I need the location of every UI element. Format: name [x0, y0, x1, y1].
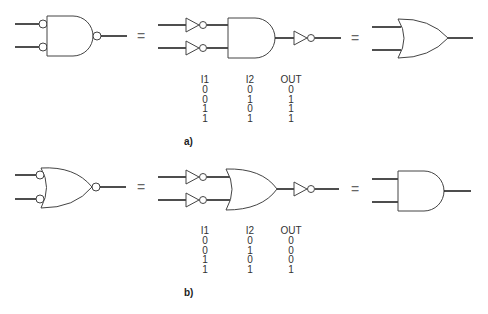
- input-inversion-bubble-icon: [36, 171, 44, 179]
- truth-table-b-col-i1: I1 0 0 1 1: [193, 226, 217, 275]
- panel-a-left-nand-gate-inverted-inputs: [15, 16, 127, 56]
- equals-sign: =: [137, 179, 145, 195]
- table-cell: 1: [238, 265, 262, 275]
- inverter-bubble-icon: [308, 35, 315, 42]
- inverter-bubble-icon: [200, 22, 207, 29]
- truth-table-b-col-i2: I2 0 1 0 1: [238, 226, 262, 275]
- or-gate-icon: [226, 169, 277, 210]
- equals-sign: =: [137, 28, 145, 44]
- and-gate-icon: [398, 171, 444, 211]
- and-gate-icon: [228, 18, 275, 58]
- panel-a-right-or-gate: [372, 19, 473, 58]
- truth-table-a-col-i1: I1 0 0 1 1: [193, 75, 217, 124]
- inverter-bubble-icon: [308, 186, 315, 193]
- panel-b-right-and-gate: [372, 171, 471, 211]
- input-inversion-bubble-icon: [39, 20, 47, 28]
- input-inversion-bubble-icon: [36, 195, 44, 203]
- panel-label-b: b): [184, 287, 193, 298]
- truth-table-b-col-out: OUT 0 0 0 1: [279, 226, 303, 275]
- inverter-bubble-icon: [200, 174, 207, 181]
- table-cell: 1: [279, 114, 303, 124]
- equals-sign: =: [351, 181, 359, 197]
- inverter-icon: [186, 193, 199, 207]
- equals-sign: =: [351, 30, 359, 46]
- inverter-icon: [186, 170, 199, 184]
- inverter-bubble-icon: [200, 45, 207, 52]
- truth-table-a-col-out: OUT 0 1 1 1: [279, 75, 303, 124]
- panel-label-a: a): [184, 136, 193, 147]
- output-inversion-bubble-icon: [92, 183, 100, 191]
- truth-table-a-col-i2: I2 0 1 0 1: [238, 75, 262, 124]
- inverter-icon: [294, 31, 307, 45]
- inverter-icon: [294, 182, 307, 196]
- input-inversion-bubble-icon: [39, 43, 47, 51]
- table-cell: 1: [193, 114, 217, 124]
- table-cell: 1: [193, 265, 217, 275]
- inverter-icon: [186, 18, 199, 32]
- panel-b-middle-circuit: [158, 169, 339, 210]
- and-gate-icon: [47, 16, 93, 56]
- panel-b-left-nor-gate-inverted-inputs: [15, 168, 126, 208]
- inverter-bubble-icon: [200, 197, 207, 204]
- or-gate-icon: [398, 19, 448, 58]
- output-inversion-bubble-icon: [93, 32, 101, 40]
- or-gate-icon: [41, 168, 92, 208]
- inverter-icon: [186, 41, 199, 55]
- table-cell: 1: [279, 265, 303, 275]
- table-cell: 1: [238, 114, 262, 124]
- panel-a-middle-circuit: [158, 18, 341, 58]
